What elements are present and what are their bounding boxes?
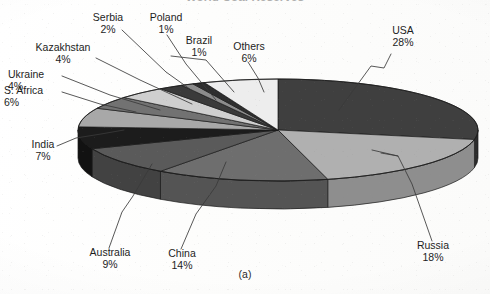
pie-slice-usa bbox=[278, 79, 478, 140]
callout-percent-others: 6% bbox=[225, 53, 273, 65]
callout-label-india: India 7% bbox=[23, 139, 63, 163]
callout-label-ukraine: Ukraine 4% bbox=[8, 69, 64, 93]
callout-percent-serbia: 2% bbox=[84, 24, 132, 36]
callout-label-usa: USA 28% bbox=[374, 25, 432, 49]
pie-top-face-slices bbox=[78, 79, 478, 181]
callout-label-kazakhstan: Kazakhstan 4% bbox=[29, 42, 97, 66]
callout-percent-safrica: 6% bbox=[4, 97, 64, 109]
callout-percent-india: 7% bbox=[23, 151, 63, 163]
callout-percent-kazakhstan: 4% bbox=[29, 54, 97, 66]
callout-label-brazil: Brazil 1% bbox=[175, 35, 223, 59]
figure-caption: (a) bbox=[0, 268, 490, 280]
callout-percent-ukraine: 4% bbox=[8, 81, 64, 93]
callout-percent-poland: 1% bbox=[140, 24, 192, 36]
chart-title: World Coal Reserves bbox=[0, 0, 490, 3]
callout-label-serbia: Serbia 2% bbox=[84, 12, 132, 36]
callout-label-poland: Poland 1% bbox=[140, 12, 192, 36]
callout-percent-russia: 18% bbox=[404, 252, 462, 264]
callout-percent-usa: 28% bbox=[374, 37, 432, 49]
figure-pie-chart-world-coal-reserves: World Coal Reserves bbox=[0, 0, 490, 294]
callout-label-russia: Russia 18% bbox=[404, 240, 462, 264]
callout-percent-brazil: 1% bbox=[175, 47, 223, 59]
callout-label-others: Others 6% bbox=[225, 41, 273, 65]
